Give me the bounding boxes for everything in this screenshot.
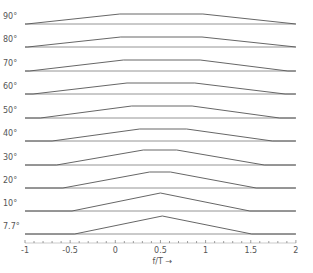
row-angle-label: 10°	[3, 199, 17, 208]
profile-line	[25, 37, 296, 47]
profile-line	[25, 83, 296, 94]
row-angle-label: 80°	[3, 35, 17, 44]
x-tick-label: 2	[293, 246, 298, 255]
profile-row: 60°	[3, 82, 296, 94]
profile-row: 30°	[3, 150, 296, 165]
x-axis-label: f/T →	[152, 257, 172, 266]
x-tick-label: 0	[113, 246, 118, 255]
row-angle-label: 30°	[3, 153, 17, 162]
x-tick-label: -1	[21, 246, 29, 255]
profile-line	[25, 216, 296, 234]
profile-line	[25, 106, 296, 118]
profile-line	[25, 150, 296, 165]
x-tick-label: 1.5	[244, 246, 257, 255]
profile-row: 40°	[3, 129, 296, 141]
profile-row: 7.7°	[3, 216, 296, 234]
x-tick-label: -0.5	[62, 246, 78, 255]
profile-rows: 90°80°70°60°50°40°30°20°10°7.7°	[3, 12, 296, 234]
row-angle-label: 50°	[3, 106, 17, 115]
x-tick-label: 0.5	[154, 246, 167, 255]
profile-row: 20°	[3, 172, 296, 188]
row-angle-label: 70°	[3, 59, 17, 68]
profile-line	[25, 129, 296, 141]
x-tick-label: 1	[203, 246, 208, 255]
profile-line	[25, 60, 296, 71]
row-angle-label: 20°	[3, 176, 17, 185]
row-angle-label: 90°	[3, 12, 17, 21]
profile-row: 80°	[3, 35, 296, 47]
profile-row: 90°	[3, 12, 296, 24]
row-angle-label: 40°	[3, 129, 17, 138]
profile-row: 10°	[3, 193, 296, 211]
trapezoid-profiles-chart: 90°80°70°60°50°40°30°20°10°7.7° -1-0.500…	[0, 0, 313, 273]
profile-row: 70°	[3, 59, 296, 71]
profile-line	[25, 172, 296, 188]
row-angle-label: 7.7°	[3, 222, 20, 231]
profile-row: 50°	[3, 106, 296, 118]
profile-line	[25, 14, 296, 24]
profile-line	[25, 193, 296, 211]
row-angle-label: 60°	[3, 82, 17, 91]
x-axis: -1-0.500.511.52	[21, 240, 298, 255]
